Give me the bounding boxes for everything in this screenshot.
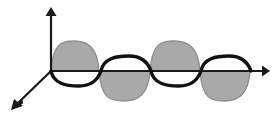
gray-lobe-2	[99, 71, 150, 101]
z-axis-line	[18, 71, 51, 103]
gray-lobe-3	[150, 41, 200, 71]
gray-lobe-1	[51, 41, 99, 71]
x-axis-arrowhead	[262, 66, 270, 77]
figure-canvas: Electromagnetic wave propagating along t…	[0, 0, 275, 117]
gray-lobe-4	[200, 71, 250, 101]
em-wave-diagram	[0, 0, 275, 117]
y-axis-arrowhead	[46, 7, 57, 16]
